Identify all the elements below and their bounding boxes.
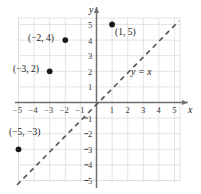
point-label-neg3-2: (−3, 2) — [13, 65, 39, 75]
data-point-neg2-4 — [62, 37, 68, 43]
y-tick-label-4: 4 — [88, 37, 92, 46]
point-label-neg5-neg3: (−5, −3) — [9, 128, 40, 138]
y-tick-label-3: 3 — [88, 52, 92, 61]
x-tick-label-1: 1 — [110, 106, 114, 115]
coordinate-plane-graphic — [0, 0, 201, 194]
x-tick-label-neg5: −5 — [13, 106, 22, 115]
x-tick-label-4: 4 — [157, 106, 161, 115]
y-tick-label-2: 2 — [88, 68, 92, 77]
y-axis-label: y — [89, 5, 93, 15]
x-axis-label: x — [188, 105, 192, 115]
y-tick-label-neg4: 4 — [88, 161, 92, 170]
x-tick-label-3: 3 — [141, 106, 145, 115]
x-tick-label-neg2: −2 — [60, 106, 69, 115]
x-tick-label-neg4: −4 — [29, 106, 38, 115]
y-axis-arrow — [94, 7, 99, 13]
line-annotation-y-equals-x: y = x — [131, 67, 152, 77]
point-label-1-5: (1, 5) — [115, 28, 136, 38]
data-point-neg5-neg3 — [16, 146, 22, 152]
x-tick-label-2: 2 — [125, 106, 129, 115]
y-tick-label-1: 1 — [88, 83, 92, 92]
coordinate-plane-figure: (−2, 4) (1, 5) (−3, 2) (−5, −3) y = x y … — [0, 0, 201, 194]
x-tick-label-neg3: −3 — [44, 106, 53, 115]
point-label-neg2-4: (−2, 4) — [28, 34, 54, 44]
y-tick-label-neg2: 2 — [88, 130, 92, 139]
y-tick-label-neg5: 5 — [88, 177, 92, 186]
y-tick-label-neg1: 1 — [88, 115, 92, 124]
x-tick-label-5: 5 — [172, 106, 176, 115]
x-tick-label-neg1: −1 — [75, 106, 84, 115]
data-point-neg3-2 — [47, 68, 53, 74]
y-tick-label-5: 5 — [88, 21, 92, 30]
y-tick-label-neg3: 3 — [88, 146, 92, 155]
